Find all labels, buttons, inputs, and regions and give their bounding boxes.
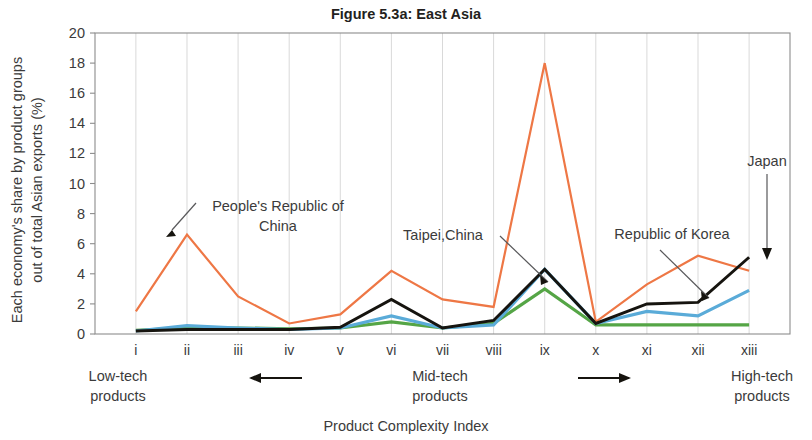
group-low-line1: Low-tech: [89, 368, 148, 384]
group-mid-line1: Mid-tech: [412, 368, 468, 384]
annotation-prc-line2: China: [259, 218, 298, 234]
group-mid-line2: products: [412, 388, 468, 404]
annotation-prc-line1: People's Republic of: [212, 198, 345, 214]
annotation-korea-label: Republic of Korea: [614, 226, 730, 242]
y-tick-label-0: 0: [77, 326, 85, 342]
x-tick-label-vi: vi: [386, 342, 396, 358]
y-tick-label-20: 20: [69, 25, 85, 41]
x-tick-label-iii: iii: [233, 342, 242, 358]
y-tick-label-6: 6: [77, 236, 85, 252]
group-high-line2: products: [734, 388, 790, 404]
x-tick-label-ii: ii: [184, 342, 190, 358]
annotation-taipei-label: Taipei,China: [403, 227, 484, 243]
x-tick-label-ix: ix: [540, 342, 550, 358]
x-axis-title: Product Complexity Index: [323, 418, 489, 434]
y-axis-title-line2: out of total Asian exports (%): [29, 97, 45, 282]
group-high-line1: High-tech: [731, 368, 793, 384]
y-tick-label-4: 4: [77, 266, 85, 282]
annotation-japan-label: Japan: [747, 153, 787, 169]
y-tick-label-18: 18: [69, 55, 85, 71]
y-tick-label-12: 12: [69, 145, 85, 161]
x-tick-label-xiii: xiii: [741, 342, 757, 358]
y-tick-label-2: 2: [77, 296, 85, 312]
x-tick-label-v: v: [337, 342, 344, 358]
x-tick-label-iv: iv: [284, 342, 294, 358]
x-tick-label-xi: xi: [642, 342, 652, 358]
y-tick-label-8: 8: [77, 206, 85, 222]
x-tick-label-xii: xii: [691, 342, 704, 358]
x-tick-label-vii: vii: [436, 342, 449, 358]
x-tick-label-viii: viii: [485, 342, 501, 358]
y-tick-label-16: 16: [69, 85, 85, 101]
y-axis-title-line1: Each economy's share by product groups: [9, 57, 25, 323]
chart-figure: Figure 5.3a: East Asia 02468101214161820…: [0, 0, 812, 440]
x-tick-label-i: i: [134, 342, 137, 358]
y-tick-label-10: 10: [69, 176, 85, 192]
y-tick-label-14: 14: [69, 115, 85, 131]
chart-title: Figure 5.3a: East Asia: [331, 6, 482, 22]
x-tick-label-x: x: [592, 342, 599, 358]
group-low-line2: products: [90, 388, 146, 404]
